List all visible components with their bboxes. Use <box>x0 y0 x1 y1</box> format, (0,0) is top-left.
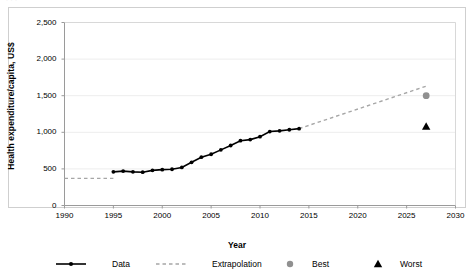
x-tick-label: 1990 <box>45 211 85 220</box>
x-tick-label: 2000 <box>142 211 182 220</box>
y-tick-label: 2,000 <box>17 54 57 63</box>
axis-ticks <box>62 23 456 209</box>
x-tick-label: 1995 <box>93 211 133 220</box>
y-tick-label: 2,500 <box>17 18 57 27</box>
axis-lines <box>65 23 456 206</box>
series-data <box>111 127 301 174</box>
chart-area: Health expenditure/capita, US$ Year 0500… <box>0 0 474 275</box>
legend-label-worst: Worst <box>400 259 422 269</box>
x-tick-label: 2010 <box>240 211 280 220</box>
series-best-marker <box>423 92 430 99</box>
x-tick-label: 2020 <box>338 211 378 220</box>
x-tick-label: 2005 <box>191 211 231 220</box>
y-tick-label: 0 <box>17 201 57 210</box>
y-tick-label: 1,500 <box>17 91 57 100</box>
gridlines <box>65 23 456 169</box>
x-tick-label: 2030 <box>436 211 474 220</box>
chart-legend: DataExtrapolationBestWorst <box>0 252 474 272</box>
y-tick-label: 500 <box>17 164 57 173</box>
legend-label-extrapolation: Extrapolation <box>212 259 262 269</box>
y-tick-label: 1,000 <box>17 127 57 136</box>
series-worst-marker <box>422 122 430 130</box>
legend-label-data: Data <box>112 259 130 269</box>
plot-svg <box>0 0 474 275</box>
x-tick-label: 2025 <box>387 211 427 220</box>
x-tick-label: 2015 <box>289 211 329 220</box>
chart-screenshot: · · · Health expenditure/capita, US$ Yea… <box>0 0 474 275</box>
legend-label-best: Best <box>312 259 329 269</box>
